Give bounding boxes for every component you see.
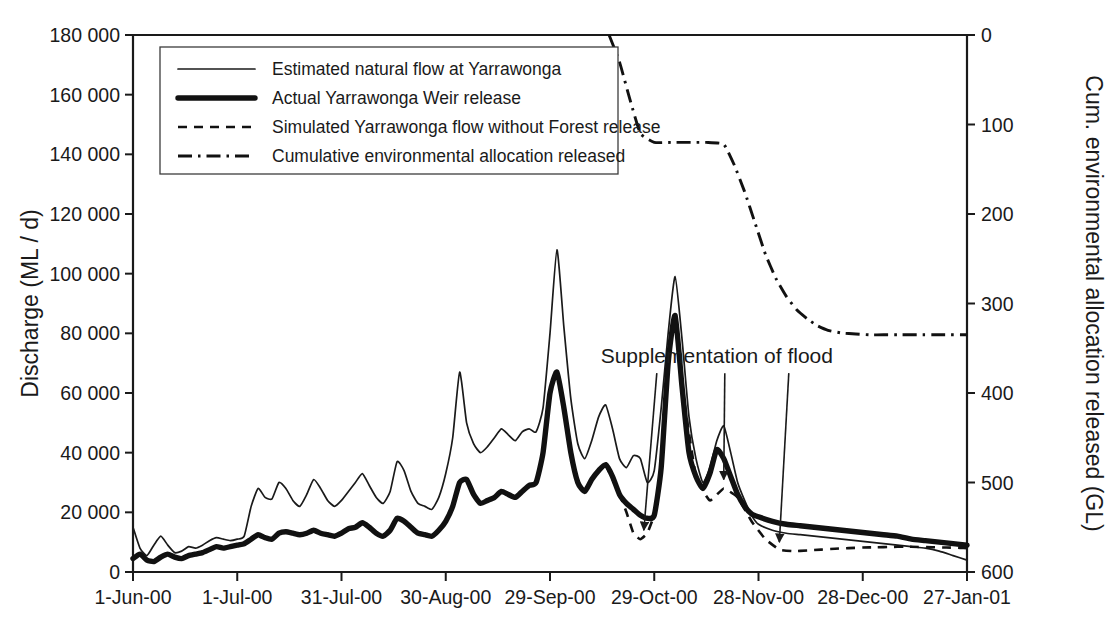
legend-item-label: Cumulative environmental allocation rele… [272,146,625,166]
y-axis-tick-label: 60 000 [60,382,120,404]
y2-axis-tick-label: 300 [981,293,1014,315]
annotation-label-supplementation: Supplementation of flood [601,344,833,367]
y2-axis-tick-label: 500 [981,472,1014,494]
x-axis-tick-label: 1-Jun-00 [95,586,172,608]
y2-axis-tick-label: 400 [981,382,1014,404]
y2-axis-tick-label: 0 [981,24,992,46]
y-axis-tick-label: 160 000 [50,84,121,106]
x-axis-tick-label: 29-Sep-00 [504,586,595,608]
x-axis-tick-label: 28-Dec-00 [817,586,908,608]
y-axis-tick-label: 0 [109,561,120,583]
legend-item-label: Actual Yarrawonga Weir release [272,88,521,108]
x-axis-tick-label: 29-Oct-00 [611,586,698,608]
y-axis-tick-label: 40 000 [60,442,120,464]
legend-item-label: Estimated natural flow at Yarrawonga [272,59,561,79]
right-axis-title: Cum. environmental allocation released (… [1081,75,1107,531]
chart-figure: 020 00040 00060 00080 000100 000120 0001… [0,0,1112,632]
y2-axis-tick-label: 600 [981,561,1014,583]
annotation-leader-line-3 [779,373,788,542]
x-axis-tick-label: 28-Nov-00 [713,586,804,608]
left-axis-title: Discharge (ML / d) [17,209,43,397]
y-axis-tick-label: 140 000 [50,143,121,165]
y-axis-tick-label: 20 000 [60,501,120,523]
y-axis-tick-label: 100 000 [50,263,121,285]
series-line-actual-weir-release [133,315,967,561]
y-axis-tick-label: 120 000 [50,203,121,225]
x-axis-tick-label: 30-Aug-00 [400,586,491,608]
x-axis-tick-label: 1-Jul-00 [202,586,273,608]
y2-axis-tick-label: 100 [981,114,1014,136]
x-axis-tick-label: 31-Jul-00 [301,586,382,608]
series-line-cumulative-allocation [609,35,967,335]
chart-canvas: 020 00040 00060 00080 000100 000120 0001… [0,0,1112,632]
y-axis-tick-label: 80 000 [60,322,120,344]
y2-axis-tick-label: 200 [981,203,1014,225]
x-axis-tick-label: 27-Jan-01 [923,586,1011,608]
annotation-leader-line-2 [724,373,725,479]
legend-item-label: Simulated Yarrawonga flow without Forest… [272,117,660,137]
y-axis-tick-label: 180 000 [50,24,121,46]
